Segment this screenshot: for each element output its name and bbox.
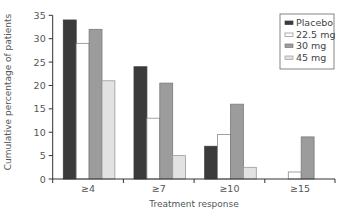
bar-30-mg-2	[231, 104, 244, 179]
bar-22-5-mg-3	[288, 172, 301, 179]
legend-label: 22.5 mg	[296, 29, 335, 40]
y-ticks: 05101520253035	[34, 10, 53, 185]
bar-22-5-mg-0	[76, 43, 89, 179]
x-tick-label: ≥4	[81, 183, 95, 194]
bar-placebo-0	[63, 20, 76, 179]
bar-30-mg-1	[160, 83, 173, 179]
bar-45-mg-1	[173, 156, 186, 179]
bar-30-mg-0	[89, 29, 102, 179]
x-tick-label: ≥7	[152, 183, 166, 194]
bar-45-mg-2	[243, 167, 256, 179]
legend-swatch	[285, 33, 293, 37]
x-tick-label: ≥15	[290, 183, 310, 194]
bar-30-mg-3	[301, 137, 314, 179]
bar-placebo-1	[134, 67, 147, 179]
bar-22-5-mg-2	[218, 135, 231, 179]
legend-label: 30 mg	[296, 40, 326, 51]
legend-label: Placebo	[296, 17, 333, 28]
bar-22-5-mg-1	[147, 118, 160, 179]
y-tick-label: 30	[34, 33, 46, 44]
bar-placebo-2	[205, 146, 218, 179]
y-tick-label: 25	[34, 57, 46, 68]
y-tick-label: 20	[34, 80, 46, 91]
y-axis-title: Cumulative percentage of patients	[3, 13, 13, 170]
y-tick-label: 15	[34, 103, 46, 114]
x-axis-title: Treatment response	[148, 199, 239, 209]
x-tick-label: ≥10	[219, 183, 239, 194]
bar-chart: 05101520253035 ≥4≥7≥10≥15 Treatment resp…	[0, 0, 355, 217]
bar-45-mg-0	[102, 81, 115, 179]
y-tick-label: 0	[40, 174, 46, 185]
legend-swatch	[285, 21, 293, 25]
legend-swatch	[285, 56, 293, 60]
legend-swatch	[285, 44, 293, 48]
y-tick-label: 5	[40, 150, 46, 161]
legend: Placebo22.5 mg30 mg45 mg	[280, 14, 335, 69]
x-ticks: ≥4≥7≥10≥15	[53, 179, 335, 194]
y-tick-label: 35	[34, 10, 46, 21]
legend-label: 45 mg	[296, 52, 326, 63]
bars-layer	[63, 20, 314, 179]
y-tick-label: 10	[34, 127, 46, 138]
